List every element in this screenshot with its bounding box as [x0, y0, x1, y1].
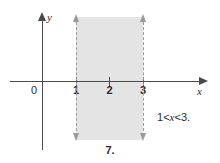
x-axis-arrow-icon [199, 77, 208, 85]
origin-label: 0 [31, 84, 37, 96]
graph-figure: y x 0 1 2 3 1<x<3. 7. [0, 0, 220, 163]
y-axis-label: y [47, 11, 52, 23]
tick-label-2: 2 [103, 84, 117, 96]
y-axis-line [42, 20, 44, 150]
boundary-x1-arrow-up-icon [73, 14, 79, 22]
y-axis-arrow-icon [38, 12, 46, 21]
x-axis-line [10, 81, 202, 82]
boundary-x1-arrow-down-icon [73, 133, 79, 141]
inequality-rhs: 3. [181, 111, 190, 123]
boundary-line-x3 [143, 22, 144, 136]
boundary-line-x1 [76, 22, 77, 136]
boundary-x3-arrow-up-icon [140, 14, 146, 22]
boundary-x3-arrow-down-icon [140, 133, 146, 141]
inequality-annotation: 1<x<3. [157, 111, 190, 123]
figure-number-label: 7. [0, 144, 220, 156]
x-axis-label: x [197, 85, 202, 97]
